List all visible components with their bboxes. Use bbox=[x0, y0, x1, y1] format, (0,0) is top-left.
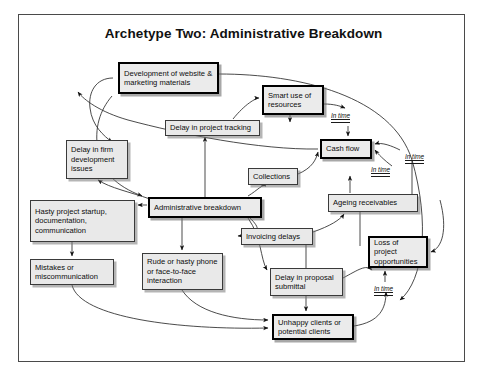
delay-marker-label: In time bbox=[405, 153, 424, 160]
node-label: Collections bbox=[253, 172, 293, 181]
node-development[interactable]: Development of website & marketing mater… bbox=[118, 62, 219, 94]
link-proposal-to-loss bbox=[343, 268, 372, 278]
link-smart-use-to-delay bbox=[324, 104, 345, 108]
node-label: Delay in project tracking bbox=[170, 123, 255, 132]
link-outer-to-loss bbox=[431, 200, 444, 252]
node-delay_track[interactable]: Delay in project tracking bbox=[165, 120, 260, 136]
link-invoicing-to-ageing bbox=[313, 214, 344, 232]
link-admin-to-delay-firm bbox=[98, 180, 150, 199]
node-label: Administrative breakdown bbox=[154, 203, 256, 212]
causal-links-layer bbox=[0, 0, 487, 381]
node-label: Loss of project opportunities bbox=[374, 238, 422, 266]
link-admin-to-collections bbox=[248, 186, 266, 196]
delay-marker-bars bbox=[371, 173, 390, 177]
node-label: Rude or hasty phone or face-to-face inte… bbox=[147, 257, 218, 285]
node-label: Delay in firm development issues bbox=[71, 145, 123, 173]
node-label: Invoicing delays bbox=[246, 232, 308, 241]
node-admin_break[interactable]: Administrative breakdown bbox=[148, 197, 262, 218]
node-label: Delay in proposal submittal bbox=[275, 273, 338, 292]
node-smart_use[interactable]: Smart use of resources bbox=[262, 85, 324, 115]
delay-marker: In time bbox=[405, 153, 424, 165]
node-label: Unhappy clients or potential clients bbox=[278, 318, 348, 337]
node-label: Mistakes or miscommunication bbox=[35, 263, 109, 282]
delay-marker-label: In time bbox=[331, 112, 350, 119]
node-delay_firm[interactable]: Delay in firm development issues bbox=[66, 140, 128, 179]
node-unhappy[interactable]: Unhappy clients or potential clients bbox=[272, 314, 354, 340]
link-delay-to-cashflow-2 bbox=[375, 150, 392, 166]
node-hasty_start[interactable]: Hasty project startup, documentation, co… bbox=[30, 200, 135, 242]
link-collections-to-cashflow bbox=[298, 152, 318, 174]
node-cash_flow[interactable]: Cash flow bbox=[320, 139, 372, 159]
link-unhappy-to-loss-delay bbox=[354, 292, 386, 326]
link-rude-to-unhappy bbox=[182, 290, 268, 320]
delay-marker-bars bbox=[374, 292, 393, 296]
node-label: Smart use of resources bbox=[268, 91, 318, 110]
link-right-delay-to-cashflow bbox=[375, 143, 400, 150]
diagram-page: Archetype Two: Administrative Breakdown bbox=[0, 0, 487, 381]
delay-marker: In time bbox=[374, 285, 393, 297]
delay-marker-bars bbox=[331, 119, 350, 123]
delay-marker: In time bbox=[331, 112, 350, 124]
node-loss_proj[interactable]: Loss of project opportunities bbox=[368, 236, 428, 268]
node-ageing[interactable]: Ageing receivables bbox=[328, 194, 418, 212]
node-mistakes[interactable]: Mistakes or miscommunication bbox=[30, 259, 114, 285]
node-collections[interactable]: Collections bbox=[248, 168, 298, 185]
delay-marker-label: In time bbox=[374, 285, 393, 292]
node-delay_prop[interactable]: Delay in proposal submittal bbox=[270, 268, 343, 296]
node-label: Ageing receivables bbox=[333, 198, 413, 207]
delay-marker: In time bbox=[371, 166, 390, 178]
link-mistakes-to-unhappy bbox=[72, 285, 268, 328]
node-invoicing[interactable]: Invoicing delays bbox=[241, 228, 313, 245]
delay-marker-label: In time bbox=[371, 166, 390, 173]
node-label: Cash flow bbox=[326, 144, 366, 153]
node-label: Hasty project startup, documentation, co… bbox=[35, 207, 130, 235]
delay-marker-bars bbox=[405, 160, 424, 164]
link-tracking-to-smart-use bbox=[233, 98, 259, 119]
node-label: Development of website & marketing mater… bbox=[124, 69, 213, 88]
node-rude[interactable]: Rude or hasty phone or face-to-face inte… bbox=[142, 253, 223, 290]
